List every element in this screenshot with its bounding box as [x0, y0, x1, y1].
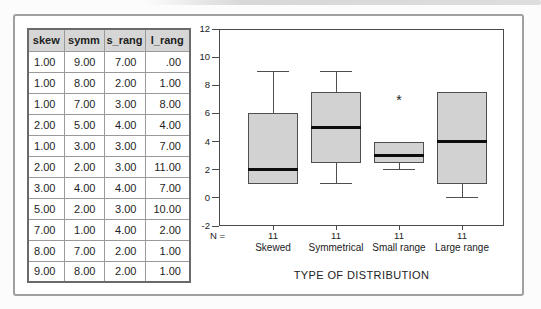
y-axis-tick-label: -2 [186, 220, 210, 232]
y-axis-tick-label: 12 [186, 23, 210, 35]
y-axis-tick-mark [212, 197, 219, 198]
n-equals-label: N = [210, 230, 225, 241]
lower-whisker-symmetrical [336, 163, 337, 184]
upper-whisker-symmetrical [336, 71, 337, 92]
median-line-small-range [374, 154, 424, 157]
y-axis-tick-label: 4 [186, 136, 210, 148]
lower-whisker-cap-large-range [446, 197, 478, 198]
lower-whisker-cap-symmetrical [320, 183, 352, 184]
box-large-range [437, 92, 487, 183]
upper-whisker-cap-skewed [257, 71, 289, 72]
n-count-label: 11 [422, 230, 502, 241]
y-axis-tick-mark [212, 226, 219, 227]
boxplot-chart: 121086420-211Skewed11Symmetrical*11Small… [0, 0, 541, 309]
y-axis-tick-label: 0 [186, 192, 210, 204]
y-axis-tick-mark [212, 29, 219, 30]
box-small-range [374, 142, 424, 163]
median-line-skewed [248, 168, 298, 171]
y-axis-tick-label: 8 [186, 79, 210, 91]
lower-whisker-cap-small-range [383, 169, 415, 170]
y-axis-tick-mark [212, 169, 219, 170]
y-axis-tick-label: 6 [186, 107, 210, 119]
y-axis-tick-mark [212, 141, 219, 142]
box-skewed [248, 113, 298, 183]
upper-whisker-cap-symmetrical [320, 71, 352, 72]
x-axis-title: TYPE OF DISTRIBUTION [219, 269, 504, 281]
y-axis-tick-label: 10 [186, 51, 210, 63]
y-axis-tick-mark [212, 57, 219, 58]
median-line-large-range [437, 140, 487, 143]
y-axis-tick-label: 2 [186, 164, 210, 176]
textbook-figure: skewsymms_rangl_rang 1.009.007.00.001.00… [0, 0, 541, 309]
lower-whisker-large-range [462, 184, 463, 198]
y-axis-tick-mark [212, 85, 219, 86]
upper-whisker-skewed [273, 71, 274, 113]
median-line-symmetrical [311, 126, 361, 129]
y-axis-tick-mark [212, 113, 219, 114]
outlier-marker-small-range: * [396, 93, 401, 107]
category-label-large-range: Large range [420, 242, 504, 253]
